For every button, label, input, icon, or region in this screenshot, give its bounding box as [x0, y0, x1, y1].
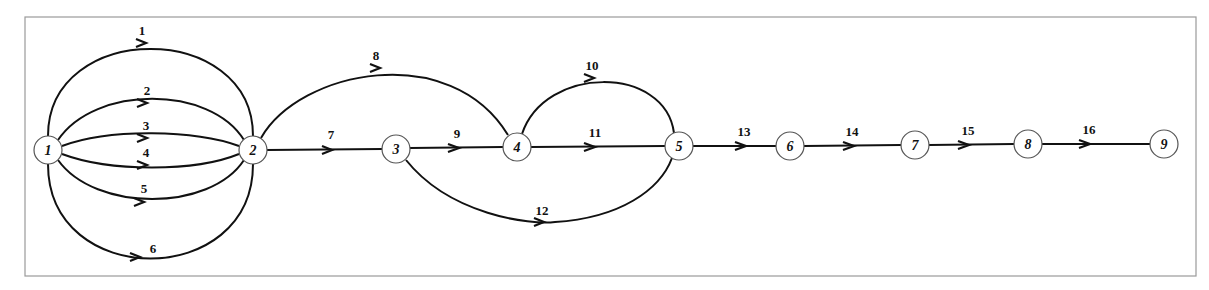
- arrow-icon: [136, 39, 146, 47]
- arrow-icon: [137, 134, 147, 142]
- node-label: 7: [912, 138, 920, 153]
- edge-10: 10: [522, 58, 674, 134]
- edge-15: 15: [929, 123, 1014, 149]
- node-6: 6: [776, 132, 804, 160]
- node-label: 1: [45, 143, 52, 158]
- edge-label: 2: [144, 83, 151, 98]
- network-diagram: 1 2 3 4 5 6 7 8 9: [0, 0, 1209, 290]
- arrow-icon: [137, 99, 147, 107]
- node-label: 3: [392, 142, 400, 157]
- edge-9: 9: [410, 126, 503, 152]
- edge-label: 15: [962, 123, 976, 138]
- node-label: 5: [676, 139, 683, 154]
- edge-2: 2: [58, 83, 244, 140]
- edge-label: 8: [373, 48, 380, 63]
- node-label: 2: [249, 143, 257, 158]
- arrow-icon: [584, 74, 594, 82]
- node-label: 6: [787, 139, 794, 154]
- node-3: 3: [382, 135, 410, 163]
- edge-16: 16: [1042, 122, 1150, 148]
- edge-label: 3: [143, 118, 150, 133]
- node-label: 4: [513, 140, 521, 155]
- edge-7: 7: [267, 127, 382, 154]
- edge-label: 11: [589, 125, 601, 140]
- edge-label: 14: [846, 124, 860, 139]
- node-9: 9: [1150, 130, 1178, 158]
- node-label: 8: [1025, 137, 1032, 152]
- edge-label: 7: [328, 127, 335, 142]
- node-5: 5: [665, 132, 693, 160]
- node-2: 2: [239, 136, 267, 164]
- edge-label: 10: [586, 58, 599, 73]
- node-1: 1: [34, 136, 62, 164]
- edge-14: 14: [804, 124, 901, 150]
- edge-label: 13: [738, 124, 752, 139]
- edge-8: 8: [261, 48, 508, 138]
- edge-label: 9: [454, 126, 461, 141]
- edge-label: 5: [141, 181, 148, 196]
- edge-3: 3: [62, 118, 239, 146]
- edge-label: 4: [143, 145, 150, 160]
- edge-11: 11: [531, 125, 665, 151]
- arrow-icon: [370, 64, 380, 72]
- edge-label: 16: [1083, 122, 1097, 137]
- node-8: 8: [1014, 130, 1042, 158]
- edge-label: 1: [139, 23, 146, 38]
- edge-label: 6: [150, 241, 157, 256]
- node-label: 9: [1161, 137, 1168, 152]
- edge-13: 13: [693, 124, 776, 150]
- edge-label: 12: [536, 203, 549, 218]
- node-7: 7: [901, 131, 929, 159]
- edge-12: 12: [406, 158, 672, 226]
- node-4: 4: [503, 133, 531, 161]
- edge-4: 4: [62, 145, 239, 169]
